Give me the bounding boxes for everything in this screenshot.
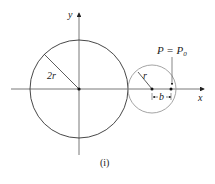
x-axis-label: x — [197, 92, 203, 103]
small-radius-label: r — [143, 70, 147, 81]
figure-caption: (i) — [100, 157, 109, 169]
distance-b-label: b — [159, 91, 164, 102]
diagram: y x 2r r P = P0 b (i) — [0, 0, 215, 184]
point-p-label: P = P0 — [156, 44, 187, 58]
origin-point — [77, 87, 80, 90]
y-axis-label: y — [67, 9, 73, 20]
large-radius-label: 2r — [47, 70, 56, 81]
point-p — [170, 88, 173, 91]
small-center-point — [151, 88, 154, 91]
